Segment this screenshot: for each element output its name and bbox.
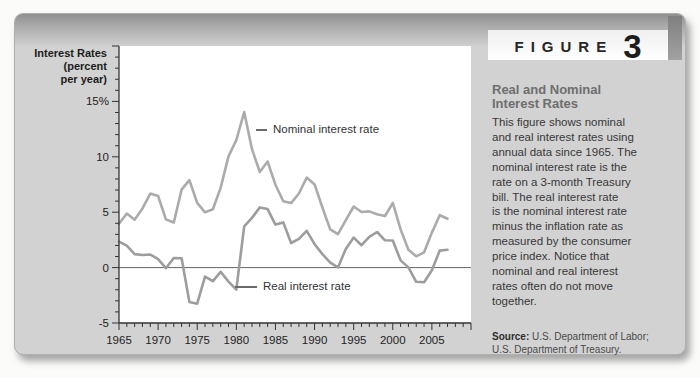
nominal-label-text: Nominal interest rate: [273, 123, 379, 135]
real-label-text: Real interest rate: [263, 280, 351, 292]
nominal-series-label: Nominal interest rate: [256, 123, 379, 135]
caption-body: This figure shows nominal and real inter…: [492, 115, 684, 309]
svg-text:0: 0: [103, 262, 109, 274]
interest-rate-chart: 19651970197519801985199019952000200515%1…: [59, 41, 489, 351]
svg-text:1965: 1965: [106, 334, 132, 346]
svg-text:15%: 15%: [86, 95, 109, 107]
svg-text:-5: -5: [99, 317, 109, 329]
figure-number: 3: [623, 32, 641, 62]
caption-source: Source: U.S. Department of Labor; U.S. D…: [492, 319, 684, 357]
svg-text:1995: 1995: [341, 334, 367, 346]
svg-text:2005: 2005: [419, 334, 445, 346]
svg-text:1975: 1975: [184, 334, 210, 346]
svg-text:10: 10: [96, 151, 109, 163]
nominal-label-dash: [256, 129, 267, 131]
svg-text:1985: 1985: [263, 334, 289, 346]
real-series-label: Real interest rate: [235, 280, 351, 292]
svg-text:5: 5: [103, 206, 109, 218]
figure-header: FIGURE 3: [488, 30, 668, 60]
caption-panel: Real and Nominal Interest Rates This fig…: [492, 83, 684, 356]
svg-text:2000: 2000: [380, 334, 406, 346]
figure-card: FIGURE 3 Interest Rates (percent per yea…: [14, 13, 686, 355]
figure-label: FIGURE: [514, 38, 613, 55]
figure-band-shadow: [668, 16, 682, 60]
svg-text:1970: 1970: [145, 334, 171, 346]
source-label: Source:: [492, 331, 529, 342]
caption-heading: Real and Nominal Interest Rates: [492, 83, 684, 110]
real-label-dash: [235, 286, 257, 288]
svg-text:1990: 1990: [302, 334, 328, 346]
svg-text:1980: 1980: [224, 334, 250, 346]
